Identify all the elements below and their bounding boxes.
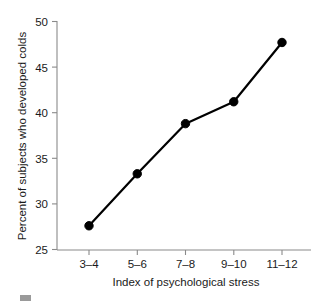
x-tick-label-2: 7–8 (176, 258, 195, 270)
y-axis-title: Percent of subjects who developed colds (16, 32, 28, 241)
y-tick-label-50: 50 (35, 16, 48, 28)
chart-figure: 50 45 40 35 30 25 3–4 5–6 7–8 9–10 11–12… (0, 0, 316, 305)
y-tick-label-40: 40 (35, 107, 48, 119)
x-tick-label-1: 5–6 (128, 258, 147, 270)
y-tick-label-25: 25 (35, 244, 48, 256)
x-axis-title: Index of psychological stress (112, 276, 259, 288)
data-point-4 (278, 38, 286, 46)
data-point-2 (181, 119, 189, 127)
y-tick-label-30: 30 (35, 198, 48, 210)
x-tick-label-0: 3–4 (79, 258, 99, 270)
data-point-1 (133, 170, 141, 178)
data-point-0 (85, 222, 93, 230)
x-tick-label-4: 11–12 (266, 258, 297, 270)
x-tick-label-3: 9–10 (221, 258, 247, 270)
page-artifact-mark (20, 295, 31, 301)
data-point-3 (230, 98, 238, 106)
line-chart: 50 45 40 35 30 25 3–4 5–6 7–8 9–10 11–12… (0, 0, 316, 305)
y-tick-label-35: 35 (35, 153, 48, 165)
y-tick-label-45: 45 (35, 62, 48, 74)
